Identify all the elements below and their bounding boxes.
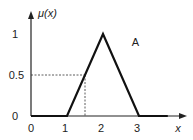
y-tick-label: 0.5 [9, 69, 24, 81]
x-axis-label: x [174, 122, 181, 134]
x-tick-label: 2 [98, 122, 104, 134]
axes [28, 11, 187, 119]
y-axis-arrow [28, 11, 34, 19]
y-tick-label: 0 [12, 110, 18, 122]
x-tick-label: 0 [28, 122, 34, 134]
x-tick-label: 1 [62, 122, 68, 134]
y-tick-label: 1 [12, 28, 18, 40]
series-label: A [132, 36, 140, 48]
series-line-A [31, 34, 168, 116]
membership-chart: 00.510123μ(x)xA [0, 0, 193, 140]
x-tick-label: 3 [134, 122, 140, 134]
y-axis-label: μ(x) [37, 7, 57, 19]
x-axis-arrow [179, 113, 187, 119]
series-layer [31, 34, 168, 116]
